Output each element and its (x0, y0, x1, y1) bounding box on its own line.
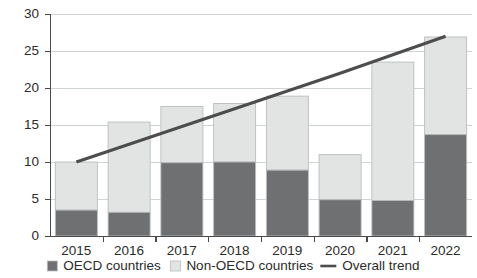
bar-segment-non-oecd (55, 162, 97, 210)
y-tick-label-5: 5 (31, 191, 39, 206)
legend-label: OECD countries (63, 258, 161, 273)
bar-2018 (214, 104, 256, 236)
x-tick-label-2020: 2020 (325, 243, 355, 258)
bar-segment-non-oecd (372, 62, 414, 200)
legend-item-oecd-countries[interactable]: OECD countries (47, 258, 161, 273)
bar-segment-oecd (319, 200, 361, 236)
x-tick-label-2015: 2015 (61, 243, 91, 258)
x-axis-ticks: 20152016201720182019202020212022 (61, 237, 460, 259)
bar-segment-oecd (266, 170, 308, 236)
bar-segment-oecd (108, 212, 150, 236)
legend-label: Non-OECD countries (186, 258, 313, 273)
bar-segment-non-oecd (161, 107, 203, 163)
y-tick-label-15: 15 (24, 117, 39, 132)
bar-segment-oecd (372, 200, 414, 236)
legend-square-marker (170, 261, 180, 271)
bar-2019 (266, 96, 308, 236)
y-tick-label-0: 0 (31, 228, 39, 243)
bar-group (55, 37, 466, 236)
bar-segment-non-oecd (425, 37, 467, 135)
bar-segment-non-oecd (266, 96, 308, 170)
y-tick-label-25: 25 (24, 43, 39, 58)
bar-segment-oecd (161, 163, 203, 236)
legend-item-overall-trend[interactable]: Overall trend (320, 258, 419, 273)
bar-segment-non-oecd (319, 155, 361, 200)
legend: OECD countriesNon-OECD countriesOverall … (47, 258, 419, 273)
x-tick-label-2021: 2021 (378, 243, 408, 258)
chart-canvas: 0510152025302015201620172018201920202021… (0, 0, 477, 278)
y-axis-ticks: 051015202530 (24, 6, 51, 243)
legend-item-non-oecd-countries[interactable]: Non-OECD countries (170, 258, 313, 273)
bar-segment-oecd (425, 135, 467, 236)
bar-2021 (372, 62, 414, 236)
legend-label: Overall trend (342, 258, 419, 273)
x-tick-label-2022: 2022 (431, 243, 461, 258)
bar-segment-non-oecd (108, 122, 150, 212)
y-tick-label-30: 30 (24, 6, 39, 21)
y-tick-label-20: 20 (24, 80, 39, 95)
bar-2022 (425, 37, 467, 236)
stacked-bar-chart: 0510152025302015201620172018201920202021… (0, 0, 477, 278)
y-tick-label-10: 10 (24, 154, 39, 169)
x-tick-label-2016: 2016 (114, 243, 144, 258)
bar-segment-oecd (55, 210, 97, 236)
x-tick-label-2017: 2017 (167, 243, 197, 258)
bar-segment-oecd (214, 162, 256, 236)
x-tick-label-2018: 2018 (220, 243, 250, 258)
x-tick-label-2019: 2019 (272, 243, 302, 258)
legend-square-marker (47, 261, 57, 271)
bar-2020 (319, 155, 361, 236)
bar-2015 (55, 162, 97, 236)
